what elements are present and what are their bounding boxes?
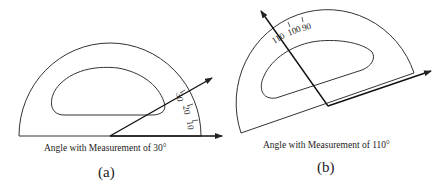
scale-label-10: 10 <box>185 120 196 130</box>
figure-label-a: (a) <box>98 164 115 181</box>
protractor-b-outline <box>236 10 414 133</box>
protractor-a-outline <box>19 43 201 136</box>
caption-b: Angle with Measurement of 110° <box>263 140 390 150</box>
scale-label-90: 90 <box>301 21 313 33</box>
protractor-b-inner-cutout <box>261 40 373 98</box>
protractor-a-inner-cutout <box>51 67 164 115</box>
protractor-diagrams: 30 20 10 110 100 90 <box>0 0 448 188</box>
protractor-a: 30 20 10 <box>19 43 222 136</box>
caption-a: Angle with Measurement of 30° <box>44 143 167 153</box>
scale-label-20: 20 <box>181 105 192 116</box>
scale-label-100: 100 <box>286 23 303 38</box>
figure-label-b: (b) <box>317 159 335 176</box>
protractor-b: 110 100 90 <box>236 10 431 133</box>
